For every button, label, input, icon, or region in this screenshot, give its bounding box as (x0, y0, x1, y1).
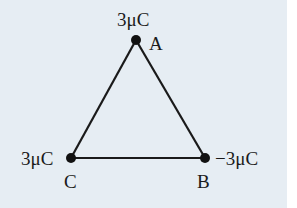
charge-label-b: −3μC (215, 149, 258, 168)
charge-dot-a (131, 35, 141, 45)
vertex-label-b: B (197, 172, 210, 191)
charge-label-a: 3μC (117, 10, 149, 29)
edge-a-b (136, 40, 205, 158)
vertex-label-c: C (64, 172, 77, 191)
vertex-label-a: A (149, 34, 163, 53)
triangle-diagram (0, 0, 297, 208)
edge-c-a (71, 40, 136, 158)
charge-dot-c (66, 153, 76, 163)
charge-dot-b (200, 153, 210, 163)
charge-label-c: 3μC (21, 149, 53, 168)
